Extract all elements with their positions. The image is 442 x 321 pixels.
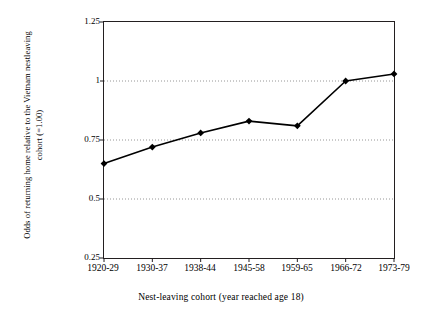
data-point-1973-79: [391, 71, 398, 78]
y-axis-title-line-2: cohort (=1.00): [33, 4, 45, 266]
y-axis-title-line-1: Odds of returning home relative to the V…: [21, 4, 33, 266]
y-tick-label-1: 1: [66, 75, 100, 85]
data-point-markers: [101, 71, 398, 167]
data-point-1920-29: [101, 160, 108, 167]
x-axis-tick-labels: 1920-29 1930-37 1938-44 1945-58 1959-65 …: [0, 262, 442, 278]
y-axis-title: Odds of returning home relative to the V…: [0, 0, 66, 270]
plot-svg: [104, 22, 394, 258]
data-point-1938-44: [197, 130, 204, 137]
y-tick-label-0.25: 0.25: [66, 252, 100, 262]
chart-figure: Odds of returning home relative to the V…: [0, 0, 442, 321]
y-tick-label-0.5: 0.5: [66, 193, 100, 203]
gridlines: [104, 81, 394, 199]
data-point-1930-37: [149, 144, 156, 151]
x-tick-label-1973-79: 1973-79: [359, 262, 429, 274]
plot-area: [103, 21, 395, 259]
y-tick-label-0.75: 0.75: [66, 134, 100, 144]
data-point-1945-58: [246, 118, 253, 125]
x-axis-title: Nest-leaving cohort (year reached age 18…: [0, 292, 442, 302]
y-tick-marks: [100, 22, 104, 258]
y-tick-label-1.25: 1.25: [66, 16, 100, 26]
